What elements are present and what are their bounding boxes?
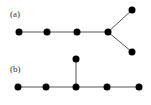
panel-a-nodes: [16, 7, 136, 56]
panel-a: (a): [10, 7, 136, 56]
graph-node: [73, 56, 80, 63]
tree-diagram: (a) (b): [0, 0, 151, 105]
panel-a-label: (a): [10, 9, 20, 19]
panel-b-label: (b): [10, 64, 21, 74]
graph-node: [44, 29, 51, 36]
graph-node: [104, 84, 111, 91]
graph-node: [129, 49, 136, 56]
graph-node: [43, 84, 50, 91]
panel-b-nodes: [15, 56, 143, 91]
graph-node: [129, 7, 136, 14]
graph-node: [136, 84, 143, 91]
graph-node: [74, 29, 81, 36]
graph-node: [73, 84, 80, 91]
graph-edge: [108, 10, 132, 32]
panel-b-edges: [18, 59, 139, 87]
graph-node: [15, 84, 22, 91]
graph-edge: [108, 32, 132, 52]
graph-node: [16, 29, 23, 36]
panel-b: (b): [10, 56, 143, 91]
graph-node: [105, 29, 112, 36]
